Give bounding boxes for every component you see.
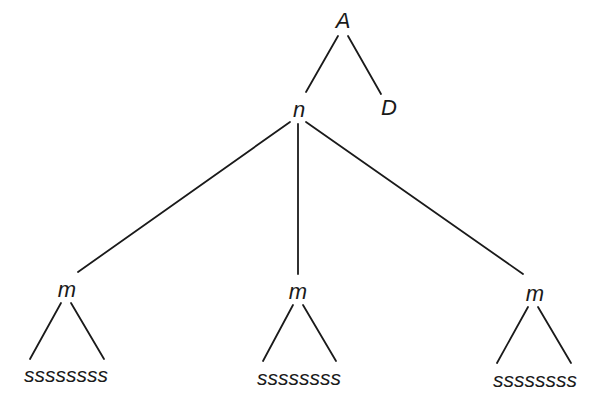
edge-n-m1 xyxy=(78,122,290,272)
node-a: A xyxy=(336,10,351,32)
edge-m3-right xyxy=(538,307,571,363)
edge-m3-left xyxy=(497,307,528,363)
node-m-left: m xyxy=(58,279,76,301)
edge-m2-right xyxy=(303,305,336,361)
edge-m2-left xyxy=(263,305,293,361)
node-m-right: m xyxy=(526,283,544,305)
leaf-right: ssssssss xyxy=(493,369,577,390)
edge-a-d xyxy=(348,36,381,94)
edge-a-n xyxy=(306,36,338,92)
node-m-center: m xyxy=(289,281,307,303)
edge-m1-right xyxy=(71,303,104,359)
node-d: D xyxy=(381,97,397,119)
tree-diagram xyxy=(0,0,590,403)
leaf-center: ssssssss xyxy=(257,367,341,388)
node-n: n xyxy=(293,99,305,121)
leaf-left: ssssssss xyxy=(24,364,108,385)
edge-m1-left xyxy=(30,303,61,359)
edge-n-m3 xyxy=(306,122,523,274)
